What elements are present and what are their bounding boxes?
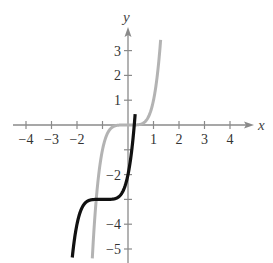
x-tick-label: 3 (201, 132, 208, 147)
x-tick-label: −4 (19, 132, 34, 147)
x-tick-label: 4 (227, 132, 234, 147)
y-tick-label: 2 (114, 68, 121, 83)
x-tick-label: 2 (176, 132, 183, 147)
y-tick-label: −2 (106, 168, 121, 183)
y-tick-label: 1 (114, 93, 121, 108)
y-axis-label: y (121, 9, 130, 25)
y-tick-label: −4 (106, 217, 121, 232)
y-tick-label: 3 (114, 44, 121, 59)
x-tick-label: −3 (44, 132, 59, 147)
chart: −4−3−21234321−2−4−5 x y (0, 0, 273, 263)
y-tick-label: −5 (106, 242, 121, 257)
x-tick-label: 1 (150, 132, 157, 147)
x-tick-label: −2 (70, 132, 85, 147)
x-axis-label: x (257, 117, 265, 133)
curve-x-pow5 (92, 40, 160, 259)
